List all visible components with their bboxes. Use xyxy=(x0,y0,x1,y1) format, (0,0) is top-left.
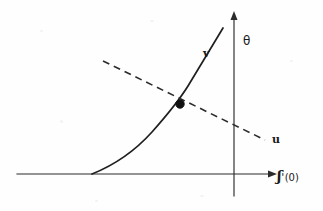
curve-u-label: u xyxy=(272,134,280,145)
x-axis-label: ʃ'(0) xyxy=(277,169,299,183)
diagram-canvas xyxy=(0,0,323,211)
curve-v-label: v xyxy=(203,48,209,59)
horizontal-axis xyxy=(17,171,277,178)
x-axis-label-argument: (0) xyxy=(285,173,299,183)
curve-u-path xyxy=(103,61,265,140)
vertical-axis xyxy=(231,11,238,196)
y-axis-label: θ xyxy=(243,35,250,47)
figure-container: θ v u ʃ'(0) xyxy=(0,0,323,211)
equilibrium-point xyxy=(176,100,184,108)
